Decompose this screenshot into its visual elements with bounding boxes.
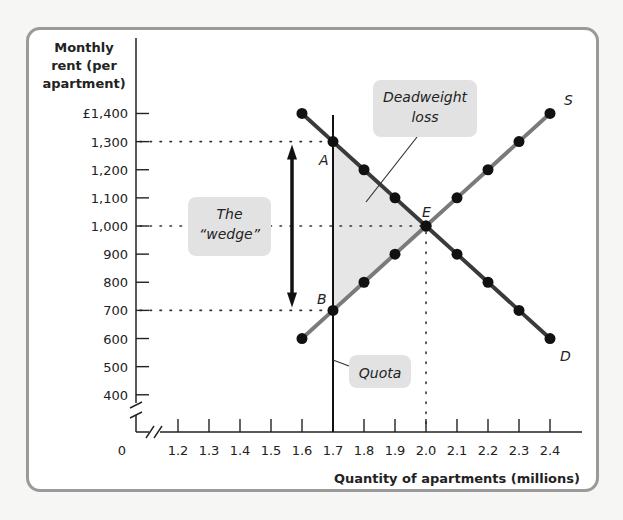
y-axis-title: apartment) [42, 76, 125, 91]
quota-callout-line [333, 360, 349, 366]
point-b-label: B [317, 291, 327, 307]
origin-label: 0 [118, 443, 126, 458]
data-point [452, 249, 463, 260]
data-point [297, 108, 308, 119]
data-point [359, 164, 370, 175]
y-tick-label: 1,100 [91, 191, 128, 206]
wedge-annotation-text: “wedge” [199, 226, 261, 242]
data-point [297, 333, 308, 344]
demand-label: D [560, 348, 571, 364]
data-point [328, 136, 339, 147]
supply-label: S [564, 92, 573, 108]
x-tick-label: 2.0 [416, 443, 437, 458]
data-point [514, 305, 525, 316]
x-tick-label: 2.2 [478, 443, 499, 458]
data-point [328, 305, 339, 316]
x-tick-label: 1.3 [199, 443, 220, 458]
x-tick-label: 1.8 [354, 443, 375, 458]
y-tick-label: 800 [103, 275, 128, 290]
quota-chart: £1,4001,3001,2001,1001,00090080070060050… [0, 0, 623, 520]
wedge-annotation-text: The [216, 206, 242, 222]
x-tick-label: 1.6 [292, 443, 313, 458]
y-tick-label: £1,400 [83, 106, 129, 121]
quota-annotation-text: Quota [359, 365, 402, 381]
y-axis-title: Monthly [54, 40, 114, 55]
point-e-label: E [422, 204, 431, 220]
x-axis-title: Quantity of apartments (millions) [334, 471, 580, 486]
point-a-label: A [318, 152, 329, 168]
wedge-arrow-down-head [287, 292, 297, 307]
data-point [359, 277, 370, 288]
x-tick-label: 1.4 [230, 443, 251, 458]
y-tick-label: 700 [103, 303, 128, 318]
data-point [514, 136, 525, 147]
data-point [545, 108, 556, 119]
wedge-arrow-up-head [287, 145, 297, 160]
deadweight-loss-annotation-text: loss [411, 109, 438, 125]
data-point [390, 192, 401, 203]
deadweight-loss-annotation-text: Deadweight [383, 89, 468, 105]
x-tick-label: 1.5 [261, 443, 282, 458]
x-tick-label: 1.2 [168, 443, 189, 458]
y-tick-label: 1,200 [91, 163, 128, 178]
data-point [545, 333, 556, 344]
y-tick-label: 400 [103, 388, 128, 403]
data-point [390, 249, 401, 260]
y-tick-label: 1,000 [91, 219, 128, 234]
y-tick-label: 600 [103, 332, 128, 347]
y-tick-label: 1,300 [91, 135, 128, 150]
y-axis-title: rent (per [51, 58, 117, 73]
x-tick-label: 1.7 [323, 443, 344, 458]
x-tick-label: 2.4 [540, 443, 561, 458]
data-point [483, 164, 494, 175]
x-tick-label: 2.3 [509, 443, 530, 458]
y-tick-label: 900 [103, 247, 128, 262]
x-tick-label: 2.1 [447, 443, 468, 458]
data-point [421, 221, 432, 232]
data-point [483, 277, 494, 288]
x-tick-label: 1.9 [385, 443, 406, 458]
data-point [452, 192, 463, 203]
y-tick-label: 500 [103, 360, 128, 375]
